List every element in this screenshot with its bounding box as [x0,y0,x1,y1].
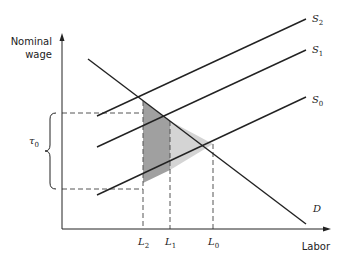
deadweight-dark-region [143,101,170,183]
tax-brace-icon [45,113,56,189]
tick-l2: L2 [137,236,149,250]
x-axis-label: Labor [302,241,331,252]
x-axis-arrow-icon [323,227,331,232]
tax-label: τ0 [29,135,39,149]
y-axis-arrow-icon [60,33,65,41]
supply-curve-s1 [97,50,306,147]
deadweight-light-region [170,121,213,170]
label-s1: S1 [312,44,323,58]
demand-curve [88,59,306,224]
y-axis-label-line1: Nominal [11,36,52,47]
supply-curve-s0 [97,97,306,195]
tick-l0: L0 [207,236,219,250]
label-s0: S0 [312,94,323,108]
y-axis-label-line2: wage [25,49,52,60]
label-s2: S2 [312,13,323,27]
tick-l1: L1 [164,236,176,250]
supply-curve-s2 [97,19,306,116]
label-d: D [312,203,321,214]
wage-tax-diagram: Nominal wage Labor S2 S1 S0 D L2 L1 L0 τ… [0,0,348,259]
